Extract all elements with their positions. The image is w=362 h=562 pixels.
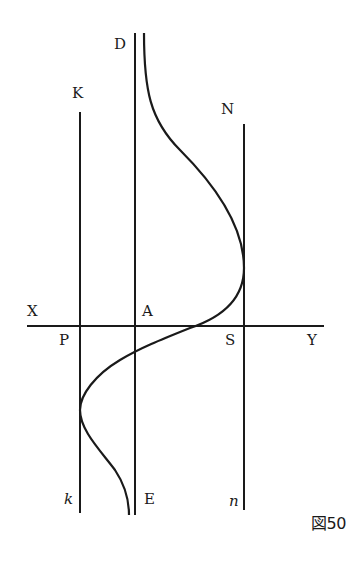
label-k: k: [64, 492, 73, 507]
label-Y: Y: [307, 333, 317, 348]
label-n: n: [229, 494, 239, 509]
label-D: D: [114, 37, 126, 52]
label-K: K: [72, 86, 83, 101]
label-A: A: [142, 304, 153, 319]
label-N: N: [221, 102, 234, 117]
wave-curve: [80, 33, 244, 515]
label-E: E: [144, 492, 155, 507]
label-P: P: [59, 333, 69, 348]
diagram-figure: [0, 0, 362, 562]
label-S: S: [225, 333, 235, 348]
figure-caption: 図50: [311, 516, 346, 532]
label-X: X: [27, 304, 38, 319]
